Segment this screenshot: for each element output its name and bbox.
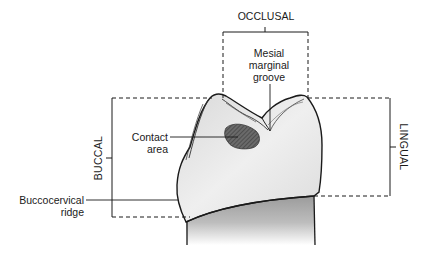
- label-line: Mesial: [243, 47, 295, 59]
- buccocervical-ridge-label: Buccocervical ridge: [5, 194, 84, 218]
- mesial-marginal-groove-label: Mesial marginal groove: [243, 47, 295, 83]
- lingual-label: LINGUAL: [398, 115, 410, 179]
- label-line: ridge: [5, 206, 84, 218]
- buccal-label: BUCCAL: [92, 128, 104, 188]
- label-line: area: [120, 143, 168, 155]
- label-line: marginal: [243, 59, 295, 71]
- label-line: Buccocervical: [5, 194, 84, 206]
- label-line: Contact: [120, 131, 168, 143]
- tooth-diagram: [0, 0, 427, 260]
- occlusal-label: OCCLUSAL: [230, 10, 302, 22]
- contact-area-label: Contact area: [120, 131, 168, 155]
- label-line: groove: [243, 71, 295, 83]
